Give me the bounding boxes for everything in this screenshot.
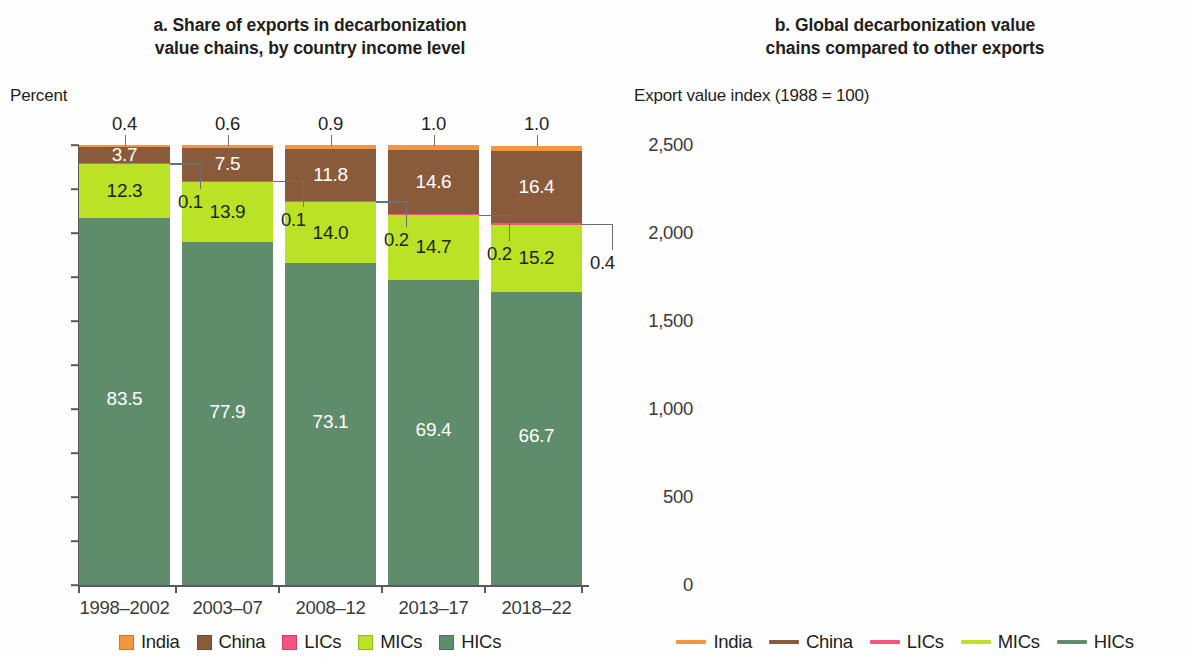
legend-item-india[interactable]: India <box>119 631 180 653</box>
legend-label: MICs <box>380 631 422 653</box>
bar-segment-hics[interactable]: 69.4 <box>388 280 479 585</box>
india-label-leader-line <box>537 135 538 146</box>
legend-label: LICs <box>907 631 944 653</box>
panel-a-title: a. Share of exports in decarbonization v… <box>0 14 620 60</box>
panel-a-x-tick-label: 2013–17 <box>399 597 469 619</box>
bar-segment-mics[interactable]: 12.3 <box>79 164 170 218</box>
panel-a-x-tick-mark <box>278 585 280 593</box>
lics-value-callout: 0.1 <box>281 209 306 231</box>
panel-a-x-tick-label: 2008–12 <box>296 597 366 619</box>
bar-segment-value: 7.5 <box>215 153 241 175</box>
panel-a-y-tick-mark <box>71 144 79 146</box>
legend-item-mics[interactable]: MICs <box>961 631 1040 653</box>
legend-item-hics[interactable]: HICs <box>439 631 501 653</box>
bar-segment-hics[interactable]: 83.5 <box>79 218 170 585</box>
lics-callout-leader-horizontal <box>170 163 200 164</box>
legend-item-lics[interactable]: LICs <box>870 631 944 653</box>
bar-segment-china[interactable]: 3.7 <box>79 147 170 163</box>
india-value-label: 0.4 <box>112 113 137 135</box>
legend-item-china[interactable]: China <box>197 631 266 653</box>
panel-a-y-tick-mark <box>71 320 79 322</box>
legend-swatch-mics-icon <box>358 635 373 650</box>
lics-callout-leader-horizontal <box>582 224 612 225</box>
panel-a-x-tick-mark <box>581 585 583 593</box>
india-label-leader-line <box>228 135 229 146</box>
bar-segment-value: 13.9 <box>210 201 246 223</box>
lics-value-callout: 0.4 <box>590 252 615 274</box>
india-value-label: 0.9 <box>318 113 343 135</box>
panel-b-y-tick-label: 1,500 <box>648 310 693 332</box>
india-label-leader-line <box>125 135 126 146</box>
india-value-label: 0.6 <box>215 113 240 135</box>
legend-swatch-hics-icon <box>439 635 454 650</box>
panel-b-y-tick-label: 2,000 <box>648 222 693 244</box>
panel-a-y-tick-mark <box>71 452 79 454</box>
panel-a-y-tick-mark <box>71 364 79 366</box>
india-label-leader-line <box>331 135 332 146</box>
panel-b-y-tick-label: 0 <box>683 574 693 596</box>
bar-segment-hics[interactable]: 66.7 <box>491 292 582 585</box>
legend-label: MICs <box>998 631 1040 653</box>
lics-callout-leader-vertical <box>406 201 407 227</box>
panel-b-title-line-2: chains compared to other exports <box>620 37 1190 60</box>
panel-a-title-line-1: a. Share of exports in decarbonization <box>0 14 620 37</box>
panel-a-y-tick-mark <box>71 276 79 278</box>
bar-segment-lics[interactable] <box>285 201 376 202</box>
bar-segment-hics[interactable]: 77.9 <box>182 242 273 585</box>
bar-segment-value: 14.7 <box>416 236 452 258</box>
legend-item-india[interactable]: India <box>676 631 752 653</box>
lics-value-callout: 0.2 <box>384 229 409 251</box>
bar-segment-china[interactable]: 11.8 <box>285 149 376 201</box>
bar-segment-value: 77.9 <box>210 401 246 423</box>
panel-a-x-tick-label: 2018–22 <box>502 597 572 619</box>
bar-segment-china[interactable]: 14.6 <box>388 150 479 214</box>
bar-segment-value: 14.0 <box>313 222 349 244</box>
panel-b-legend: IndiaChinaLICsMICsHICs <box>620 631 1190 653</box>
legend-item-hics[interactable]: HICs <box>1057 631 1134 653</box>
stacked-bar[interactable]: 69.414.714.6 <box>388 145 479 585</box>
bar-segment-india[interactable] <box>491 146 582 150</box>
legend-swatch-china-icon <box>197 635 212 650</box>
bar-segment-lics[interactable] <box>491 223 582 225</box>
india-label-leader-line <box>434 135 435 146</box>
legend-swatch-india-icon <box>119 635 134 650</box>
panel-a-y-tick-mark <box>71 408 79 410</box>
bar-segment-india[interactable] <box>388 145 479 149</box>
legend-item-lics[interactable]: LICs <box>282 631 341 653</box>
bar-segment-china[interactable]: 16.4 <box>491 151 582 223</box>
lics-callout-leader-vertical <box>303 181 304 207</box>
legend-item-mics[interactable]: MICs <box>358 631 422 653</box>
bar-segment-value: 11.8 <box>313 164 347 186</box>
bar-segment-value: 66.7 <box>519 425 555 447</box>
stacked-bar[interactable]: 83.512.33.7 <box>79 145 170 585</box>
legend-label: China <box>806 631 853 653</box>
panel-b-y-tick-label: 2,500 <box>648 134 693 156</box>
bar-segment-hics[interactable]: 73.1 <box>285 263 376 585</box>
panel-b-axis-unit-label: Export value index (1988 = 100) <box>634 86 869 106</box>
panel-a-x-tick-mark <box>78 585 80 593</box>
legend-line-hics-icon <box>1057 640 1087 645</box>
lics-value-callout: 0.1 <box>178 191 203 213</box>
legend-item-china[interactable]: China <box>769 631 853 653</box>
bar-segment-value: 14.6 <box>416 171 452 193</box>
bar-segment-value: 15.2 <box>519 247 555 269</box>
stacked-bar[interactable]: 66.715.216.4 <box>491 145 582 585</box>
panel-a-x-tick-mark <box>484 585 486 593</box>
legend-line-india-icon <box>676 640 706 645</box>
panel-b-title-line-1: b. Global decarbonization value <box>620 14 1190 37</box>
legend-line-china-icon <box>769 640 799 645</box>
panel-a-y-tick-mark <box>71 188 79 190</box>
legend-label: China <box>219 631 266 653</box>
lics-callout-leader-vertical <box>509 215 510 241</box>
lics-callout-leader-horizontal <box>376 201 406 202</box>
panel-a-y-tick-mark <box>71 232 79 234</box>
panel-a-stacked-bar-chart: a. Share of exports in decarbonization v… <box>0 0 620 659</box>
india-value-label: 1.0 <box>421 113 446 135</box>
panel-a-x-axis-line <box>78 585 589 587</box>
panel-a-y-tick-mark <box>71 540 79 542</box>
legend-label: HICs <box>1094 631 1134 653</box>
legend-line-mics-icon <box>961 640 991 645</box>
legend-swatch-lics-icon <box>282 635 297 650</box>
bar-segment-lics[interactable] <box>388 214 479 215</box>
panel-a-y-tick-mark <box>71 496 79 498</box>
